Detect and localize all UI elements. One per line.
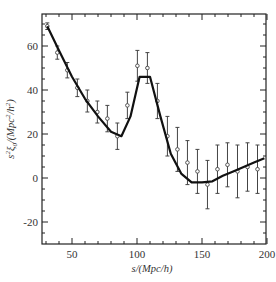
y-tick-label: 40 — [27, 84, 39, 96]
axis-ticks: 50100150200-200204060 — [23, 14, 275, 260]
x-tick-label: 100 — [129, 248, 146, 260]
plot-frame — [42, 14, 266, 244]
data-point — [145, 53, 149, 84]
data-point — [225, 143, 229, 187]
model-curve — [47, 26, 264, 182]
y-tick-label: -20 — [23, 216, 38, 228]
y-tick-label: 0 — [33, 172, 39, 184]
y-tick-label: 60 — [27, 40, 39, 52]
plot-border — [42, 14, 266, 244]
data-point — [195, 149, 199, 193]
data-point — [215, 145, 219, 193]
x-axis-label: s/(Mpc/h) — [132, 263, 173, 275]
x-tick-label: 150 — [194, 248, 211, 260]
data-points-with-error-bars — [45, 23, 259, 209]
model-line — [47, 26, 264, 182]
data-point — [256, 145, 260, 193]
data-point — [205, 160, 209, 208]
x-tick-label: 50 — [67, 248, 79, 260]
correlation-function-chart: 50100150200-200204060 s/(Mpc/h) s2ξ0/(Mp… — [0, 0, 276, 282]
data-point — [125, 92, 129, 118]
data-point — [235, 145, 239, 198]
y-axis-label: s2ξ0/(Mpc2/h2) — [4, 99, 19, 159]
x-tick-label: 200 — [259, 248, 276, 260]
y-tick-label: 20 — [27, 128, 39, 140]
